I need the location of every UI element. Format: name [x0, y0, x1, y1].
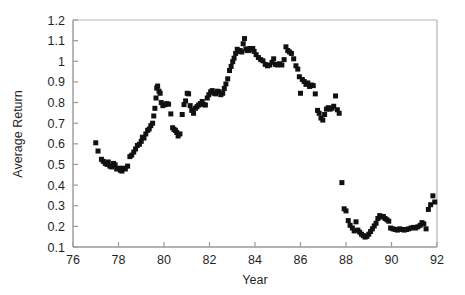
- data-point: [177, 131, 182, 136]
- data-point: [421, 221, 426, 226]
- data-point: [180, 112, 185, 117]
- data-point: [152, 106, 157, 111]
- y-tick-label: 1: [58, 55, 65, 69]
- plot-canvas: 0.10.20.30.40.50.60.70.80.911.11.2 76788…: [0, 0, 465, 295]
- x-tick-label: 80: [157, 253, 171, 267]
- data-point: [229, 64, 234, 69]
- data-point: [282, 57, 287, 62]
- data-point: [289, 51, 294, 56]
- y-tick-label: 0.8: [48, 96, 65, 110]
- x-axis-title: Year: [242, 273, 267, 287]
- data-point: [125, 164, 130, 169]
- x-tick-label: 88: [339, 253, 353, 267]
- data-point: [430, 193, 435, 198]
- data-point: [337, 111, 342, 116]
- data-point: [295, 67, 300, 72]
- y-tick-label: 0.4: [48, 179, 65, 193]
- x-tick-label: 84: [248, 253, 262, 267]
- data-point: [322, 112, 327, 117]
- data-point: [183, 98, 188, 103]
- data-point: [151, 113, 156, 118]
- data-point: [311, 83, 316, 88]
- y-tick-label: 0.9: [48, 75, 65, 89]
- x-tick-label: 90: [385, 253, 399, 267]
- data-point: [320, 118, 325, 123]
- data-point: [346, 218, 351, 223]
- data-point: [96, 149, 101, 154]
- data-point: [271, 56, 276, 61]
- data-point: [242, 36, 247, 41]
- data-point: [317, 111, 322, 116]
- data-point: [166, 102, 171, 107]
- data-point: [188, 103, 193, 108]
- data-point: [374, 221, 379, 226]
- data-point-series: [93, 36, 437, 240]
- data-point: [339, 180, 344, 185]
- scatter-plot-figure: 0.10.20.30.40.50.60.70.80.911.11.2 76788…: [0, 0, 465, 295]
- x-tick-label: 92: [430, 253, 444, 267]
- data-point: [223, 81, 228, 86]
- data-point: [150, 121, 155, 126]
- data-point: [386, 219, 391, 224]
- data-point: [432, 200, 437, 205]
- data-point: [426, 207, 431, 212]
- data-point: [424, 226, 429, 231]
- y-axis-title: Average Return: [11, 90, 25, 177]
- y-tick-label: 1.1: [48, 34, 65, 48]
- data-point: [168, 111, 173, 116]
- data-point: [344, 208, 349, 213]
- data-point: [222, 86, 227, 91]
- data-point: [154, 96, 159, 101]
- data-point: [313, 91, 318, 96]
- data-point: [241, 41, 246, 46]
- data-point: [155, 84, 160, 89]
- data-point: [354, 219, 359, 224]
- data-point: [279, 62, 284, 67]
- x-tick-label: 86: [294, 253, 308, 267]
- y-tick-label: 1.2: [48, 14, 65, 28]
- y-tick-label: 0.5: [48, 158, 65, 172]
- x-tick-label: 76: [66, 253, 80, 267]
- data-point: [191, 111, 196, 116]
- data-point: [232, 56, 237, 61]
- y-tick-label: 0.7: [48, 117, 65, 131]
- data-point: [220, 91, 225, 96]
- data-point: [225, 76, 230, 81]
- data-point: [298, 91, 303, 96]
- x-axis-ticks: 767880828486889092: [66, 242, 444, 267]
- x-tick-label: 78: [112, 253, 126, 267]
- y-tick-label: 0.1: [48, 241, 65, 255]
- data-point: [186, 91, 191, 96]
- y-tick-label: 0.3: [48, 199, 65, 213]
- x-tick-label: 82: [203, 253, 217, 267]
- data-point: [291, 56, 296, 61]
- data-point: [203, 103, 208, 108]
- y-tick-label: 0.2: [48, 220, 65, 234]
- y-tick-label: 0.6: [48, 137, 65, 151]
- data-point: [93, 140, 98, 145]
- data-point: [158, 91, 163, 96]
- data-point: [333, 93, 338, 98]
